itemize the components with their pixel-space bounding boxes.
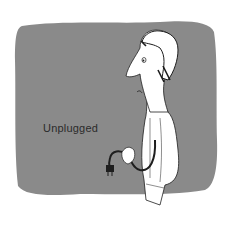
caption-text: Unplugged xyxy=(43,121,98,135)
cartoon-scene xyxy=(0,0,232,226)
plug xyxy=(106,165,114,172)
illustration: Unplugged xyxy=(0,0,232,226)
pupil xyxy=(143,60,145,62)
gray-panel xyxy=(15,21,217,195)
